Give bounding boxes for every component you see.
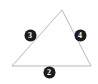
triangle-diagram: 3 4 2 xyxy=(0,0,98,84)
side-label-badge-left: 3 xyxy=(25,30,36,41)
side-label-badge-bottom: 2 xyxy=(44,67,55,78)
side-label-badge-right: 4 xyxy=(75,30,86,41)
